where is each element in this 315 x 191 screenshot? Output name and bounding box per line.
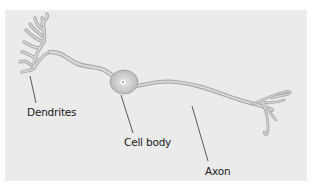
axon-shape xyxy=(136,81,290,134)
dendrites-leader-line xyxy=(30,76,36,103)
neuron-illustration xyxy=(0,0,315,191)
cell-body-label: Cell body xyxy=(124,136,171,148)
dendrites-label: Dendrites xyxy=(27,106,76,118)
axon-label: Axon xyxy=(205,165,230,177)
cell-body-leader-line xyxy=(121,95,133,133)
axon-leader-line xyxy=(192,106,208,161)
